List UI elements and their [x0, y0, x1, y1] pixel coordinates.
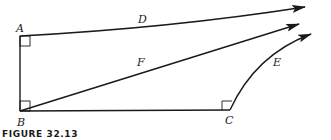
point-label-b: B	[16, 116, 25, 129]
vector-label-f: F	[136, 56, 145, 69]
point-label-c: C	[225, 114, 234, 127]
point-label-a: A	[15, 22, 24, 35]
vector-d	[20, 7, 305, 36]
vector-label-d: D	[137, 13, 147, 26]
figure-caption: FIGURE 32.13	[2, 129, 78, 139]
figure-diagram: A B C D F E FIGURE 32.13	[0, 0, 331, 140]
vector-f	[20, 24, 299, 111]
vector-e	[230, 34, 311, 110]
segment-bc	[20, 110, 230, 111]
right-angle-marker-a	[20, 36, 30, 46]
vector-label-e: E	[272, 56, 281, 69]
